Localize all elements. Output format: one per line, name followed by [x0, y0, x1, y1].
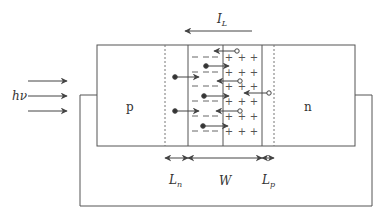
width-label: W	[219, 175, 231, 187]
ln-main: L	[169, 173, 177, 187]
lp-label: Lp	[262, 174, 275, 189]
svg-text:+: +	[238, 96, 246, 107]
svg-text:+: +	[250, 111, 258, 122]
svg-text:+: +	[225, 52, 233, 63]
svg-text:+: +	[225, 96, 233, 107]
ln-sub: n	[177, 180, 182, 189]
lp-main: L	[262, 173, 270, 187]
svg-text:+: +	[238, 52, 246, 63]
photocurrent-label: IL	[217, 13, 227, 28]
svg-text:+: +	[250, 96, 258, 107]
p-region-label: p	[126, 101, 134, 113]
photocurrent-sub: L	[222, 19, 227, 28]
lp-sub: p	[270, 180, 275, 189]
photon-label: hν	[12, 90, 27, 102]
svg-text:+: +	[238, 67, 246, 78]
n-region-label: n	[304, 101, 312, 113]
svg-text:+: +	[250, 81, 258, 92]
svg-text:+: +	[250, 67, 258, 78]
photodiode-diagram: +++ +++ +++ +++ +++ +++	[0, 0, 377, 218]
electron-arrows	[173, 64, 229, 129]
svg-text:+: +	[238, 126, 246, 137]
svg-text:+: +	[225, 67, 233, 78]
svg-text:+: +	[225, 81, 233, 92]
ln-label: Ln	[169, 174, 182, 189]
svg-text:+: +	[250, 126, 258, 137]
svg-text:+: +	[225, 111, 233, 122]
incident-light-arrows	[28, 81, 67, 111]
svg-text:+: +	[225, 126, 233, 137]
positive-charges: +++ +++ +++ +++ +++ +++	[225, 52, 258, 137]
svg-text:+: +	[250, 52, 258, 63]
